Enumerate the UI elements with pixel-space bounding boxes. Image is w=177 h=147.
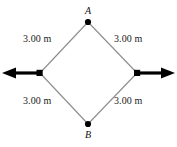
- vertex-dot-a: [85, 19, 91, 25]
- vertex-dot-right: [134, 70, 140, 76]
- edge-top-left: [40, 22, 88, 73]
- left-force-arrow-head: [2, 68, 16, 79]
- side-label-top-left: 3.00 m: [23, 34, 51, 44]
- right-force-arrow-head: [161, 68, 175, 79]
- side-label-top-right: 3.00 m: [114, 34, 142, 44]
- vertex-dot-b: [85, 121, 91, 127]
- vertex-label-a: A: [85, 6, 91, 16]
- edge-top-right: [88, 22, 137, 73]
- diagram-canvas: [0, 0, 177, 147]
- vertex-label-b: B: [85, 130, 91, 140]
- vertex-dot-left: [37, 70, 43, 76]
- physics-diagram-figure: 3.00 m 3.00 m 3.00 m 3.00 m A B: [0, 0, 177, 147]
- side-label-bottom-right: 3.00 m: [114, 96, 142, 106]
- side-label-bottom-left: 3.00 m: [23, 96, 51, 106]
- force-arrows: [2, 68, 175, 79]
